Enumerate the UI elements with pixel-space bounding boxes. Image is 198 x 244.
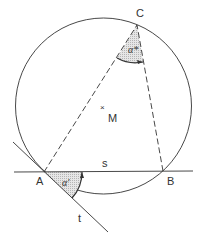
chord-ac bbox=[44, 25, 137, 172]
tangent-line-t bbox=[13, 142, 108, 232]
chord-bc bbox=[137, 25, 163, 171]
geometry-diagram: × M C A B s t α* α' bbox=[0, 0, 198, 244]
point-label-c: C bbox=[136, 7, 144, 19]
secant-line-s bbox=[14, 171, 193, 172]
center-label-m: M bbox=[108, 112, 117, 124]
angle-label-inscribed: α* bbox=[128, 44, 138, 55]
point-label-b: B bbox=[167, 175, 174, 187]
point-label-a: A bbox=[36, 175, 44, 187]
center-marker: × bbox=[100, 103, 105, 112]
line-label-t: t bbox=[78, 212, 81, 224]
line-label-s: s bbox=[102, 157, 108, 169]
angle-label-tangent-chord: α' bbox=[62, 177, 70, 188]
